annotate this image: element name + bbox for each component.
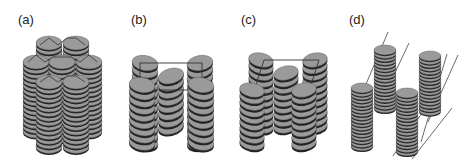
disc-column — [290, 81, 317, 154]
disc-column — [128, 75, 156, 154]
panel-c-oblique-columns — [238, 51, 328, 155]
disc-column — [187, 75, 215, 154]
columnar-phases-diagram — [0, 0, 467, 162]
disc-column — [36, 75, 62, 155]
disc-column — [419, 51, 441, 117]
disc-column — [396, 88, 418, 157]
panel-d-lattice-columns — [351, 32, 458, 159]
disc-column — [374, 45, 396, 114]
disc-column — [238, 81, 265, 154]
panel-b-rectangular-columns — [128, 53, 215, 154]
panel-a-hexagonal-columns — [23, 36, 102, 155]
disc-column — [351, 83, 373, 152]
disc-column — [157, 65, 186, 139]
disc-column — [63, 75, 89, 155]
